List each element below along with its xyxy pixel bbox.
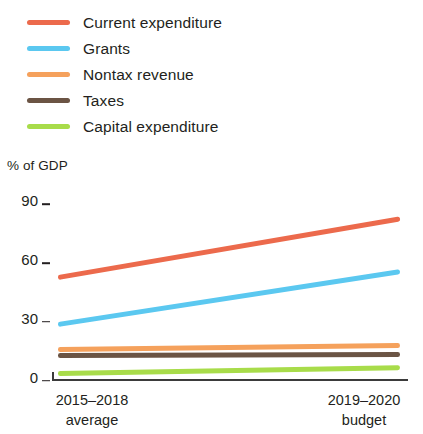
- chart-plot-area: 0306090 2015–2018average2019–2020budget: [0, 0, 423, 434]
- x-axis-tick-label-line1: 2019–2020: [328, 392, 401, 408]
- y-axis-tick-mark: [42, 262, 50, 264]
- x-axis-tick-label-line2: average: [22, 410, 162, 430]
- series-line: [58, 352, 400, 358]
- x-axis-line: [52, 379, 408, 381]
- x-axis-tick-label-line1: 2015–2018: [56, 392, 129, 408]
- y-axis-tick-label: 60: [4, 251, 38, 268]
- series-line: [58, 269, 401, 326]
- x-axis-tick-label-line2: budget: [294, 410, 423, 430]
- y-axis-tick-label: 30: [4, 309, 38, 326]
- y-axis-tick-mark: [42, 321, 50, 323]
- x-axis-tick-label: 2019–2020budget: [294, 390, 423, 430]
- series-line: [58, 343, 400, 352]
- y-axis-tick-mark: [42, 204, 50, 206]
- y-axis-tick-label: 0: [4, 368, 38, 385]
- y-axis-tick-mark: [42, 380, 50, 382]
- series-line: [58, 216, 401, 279]
- x-axis-tick-label: 2015–2018average: [22, 390, 162, 430]
- y-axis-tick-label: 90: [4, 192, 38, 209]
- y-axis-line: [52, 372, 54, 381]
- series-line: [58, 365, 400, 375]
